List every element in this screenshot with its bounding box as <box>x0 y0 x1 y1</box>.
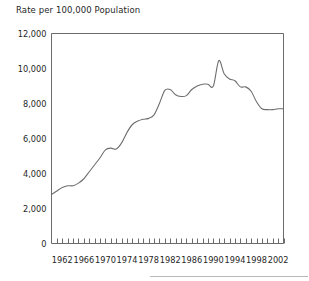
x-tick-label: 1998 <box>246 255 267 265</box>
y-tick-label: 4,000 <box>23 169 46 179</box>
x-tick-label: 1994 <box>225 255 246 265</box>
y-tick-label: 6,000 <box>23 134 46 144</box>
x-tick-label: 1966 <box>73 255 94 265</box>
plot-axes <box>52 34 284 244</box>
line-chart-plot: 02,0004,0006,0008,00010,00012,000 196219… <box>0 0 309 281</box>
page-footer-rule <box>150 276 308 277</box>
x-tick-label: 1990 <box>203 255 224 265</box>
chart-figure: Rate per 100,000 Population 02,0004,0006… <box>0 0 309 281</box>
x-tick-label: 1962 <box>52 255 73 265</box>
x-axis-tick-labels: 1962196619701974197819821986199019941998… <box>52 255 289 265</box>
plot-border <box>52 34 284 244</box>
y-tick-label: 0 <box>41 239 46 249</box>
data-series-group <box>52 60 284 194</box>
crime-rate-line <box>52 60 284 194</box>
x-tick-label: 1986 <box>181 255 202 265</box>
y-tick-label: 2,000 <box>23 204 46 214</box>
y-axis-tick-labels: 02,0004,0006,0008,00010,00012,000 <box>18 29 47 249</box>
y-tick-label: 8,000 <box>23 99 46 109</box>
x-tick-label: 2002 <box>268 255 289 265</box>
x-tick-label: 1970 <box>95 255 116 265</box>
y-tick-label: 12,000 <box>18 29 47 39</box>
x-axis-tick-marks <box>58 239 285 244</box>
x-tick-label: 1978 <box>138 255 159 265</box>
x-tick-label: 1974 <box>117 255 138 265</box>
y-tick-label: 10,000 <box>18 64 47 74</box>
x-tick-label: 1982 <box>160 255 181 265</box>
